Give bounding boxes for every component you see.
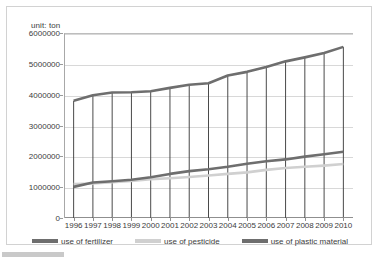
y-tick-label: 4000000 xyxy=(8,90,60,99)
x-tick-label: 2003 xyxy=(200,221,218,230)
y-tick-label: 0 xyxy=(8,214,60,223)
legend-label: use of plastic material xyxy=(271,237,348,246)
chart-figure: unit: ton 010000002000000300000040000005… xyxy=(6,6,372,245)
x-tick-mark xyxy=(266,217,267,221)
x-tick-mark xyxy=(170,217,171,221)
legend-swatch-icon xyxy=(242,239,268,243)
x-tick-label: 2007 xyxy=(277,221,295,230)
y-tick-label: 5000000 xyxy=(8,59,60,68)
plot-wrapper: unit: ton 010000002000000300000040000005… xyxy=(7,7,373,246)
y-tick-label: 3000000 xyxy=(8,121,60,130)
legend-label: use of pesticide xyxy=(164,237,220,246)
y-tick-mark xyxy=(60,156,63,157)
x-tick-label: 2004 xyxy=(219,221,237,230)
x-tick-mark xyxy=(112,217,113,221)
x-tick-label: 2010 xyxy=(334,221,352,230)
y-tick-label: 6000000 xyxy=(8,29,60,38)
x-tick-label: 2009 xyxy=(315,221,333,230)
x-axis-labels: 1996199719981999200020012002200320042005… xyxy=(64,221,353,235)
x-tick-mark xyxy=(189,217,190,221)
x-tick-label: 2001 xyxy=(161,221,179,230)
x-tick-label: 2000 xyxy=(142,221,160,230)
chart-legend: use of fertilizeruse of pesticideuse of … xyxy=(7,235,373,247)
x-tick-label: 1996 xyxy=(65,221,83,230)
x-tick-mark xyxy=(286,217,287,221)
caption-placeholder-bar xyxy=(2,252,64,257)
x-tick-label: 1999 xyxy=(123,221,141,230)
x-tick-mark xyxy=(209,217,210,221)
y-tick-mark xyxy=(60,218,63,219)
legend-item[interactable]: use of plastic material xyxy=(242,237,348,246)
y-tick-mark xyxy=(60,187,63,188)
legend-label: use of fertilizer xyxy=(61,237,113,246)
x-tick-label: 2002 xyxy=(180,221,198,230)
x-tick-mark xyxy=(93,217,94,221)
x-tick-mark xyxy=(151,217,152,221)
series-layer xyxy=(64,33,353,218)
y-tick-label: 2000000 xyxy=(8,152,60,161)
x-tick-mark xyxy=(131,217,132,221)
y-tick-mark xyxy=(60,33,63,34)
x-tick-label: 2005 xyxy=(238,221,256,230)
y-tick-mark xyxy=(60,126,63,127)
legend-item[interactable]: use of pesticide xyxy=(135,237,220,246)
x-tick-label: 2008 xyxy=(296,221,314,230)
y-axis-labels: 0100000020000003000000400000050000006000… xyxy=(7,33,60,218)
x-tick-mark xyxy=(247,217,248,221)
y-tick-label: 1000000 xyxy=(8,183,60,192)
legend-swatch-icon xyxy=(135,239,161,243)
x-tick-mark xyxy=(305,217,306,221)
legend-item[interactable]: use of fertilizer xyxy=(32,237,113,246)
x-tick-label: 1998 xyxy=(103,221,121,230)
y-tick-mark xyxy=(60,64,63,65)
x-tick-label: 2006 xyxy=(257,221,275,230)
x-tick-mark xyxy=(228,217,229,221)
x-tick-mark xyxy=(343,217,344,221)
x-tick-label: 1997 xyxy=(84,221,102,230)
x-tick-mark xyxy=(74,217,75,221)
x-tick-mark xyxy=(324,217,325,221)
y-tick-mark xyxy=(60,95,63,96)
legend-swatch-icon xyxy=(32,239,58,243)
